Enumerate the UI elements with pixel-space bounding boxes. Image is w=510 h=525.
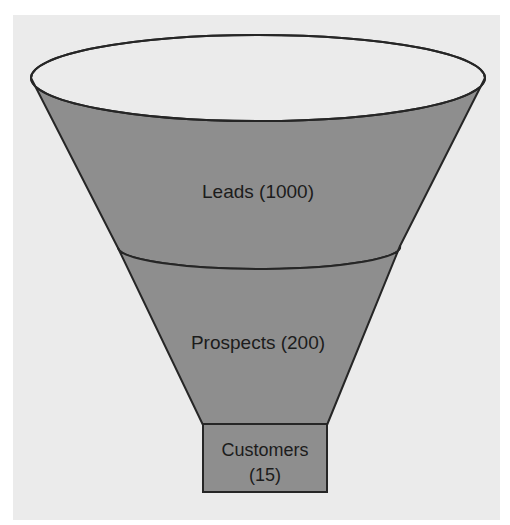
funnel-figure: Leads (1000) Prospects (200) Customers (… [0,0,510,525]
funnel-label-prospects: Prospects (200) [191,332,325,353]
funnel-graphic: Leads (1000) Prospects (200) Customers (… [0,0,510,525]
funnel-label-customers-line1: Customers [221,440,308,460]
funnel-label-customers-line2: (15) [249,465,281,485]
funnel-label-leads: Leads (1000) [202,181,314,202]
